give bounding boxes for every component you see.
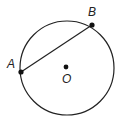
point-o [64, 65, 69, 70]
chord-ab [21, 25, 92, 72]
label-a: A [6, 57, 15, 71]
point-a [18, 69, 23, 74]
label-o: O [62, 72, 71, 86]
circle-diagram: A B O [0, 0, 119, 125]
point-b [89, 22, 94, 27]
label-b: B [88, 5, 96, 19]
